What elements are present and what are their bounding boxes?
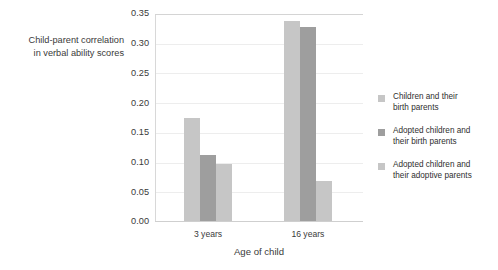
legend-swatch <box>378 129 385 136</box>
y-tick-label: 0.25 <box>115 69 149 78</box>
legend-label: Adopted children andtheir birth parents <box>393 126 496 147</box>
y-tick-label: 0.35 <box>115 9 149 18</box>
legend-label: Adopted children andtheir adoptive paren… <box>393 160 496 181</box>
bar <box>200 155 216 221</box>
legend-item: Children and theirbirth parents <box>378 92 496 114</box>
legend-label-line: Children and their <box>393 92 496 103</box>
y-tick-label: 0.00 <box>115 217 149 226</box>
bar <box>184 118 200 221</box>
bar <box>316 181 332 221</box>
y-axis-title-line-2: in verbal ability scores <box>2 47 124 60</box>
x-tick-label: 16 years <box>268 230 348 239</box>
y-tick-label: 0.30 <box>115 39 149 48</box>
legend-label: Children and theirbirth parents <box>393 92 496 113</box>
y-tick-label: 0.15 <box>115 128 149 137</box>
bar <box>284 21 300 221</box>
legend-label-line: birth parents <box>393 103 496 114</box>
x-tick-label: 3 years <box>168 230 248 239</box>
gridline <box>155 44 363 45</box>
bar <box>216 164 232 221</box>
legend: Children and theirbirth parentsAdopted c… <box>378 92 496 194</box>
gridline <box>155 73 363 74</box>
legend-swatch <box>378 163 385 170</box>
legend-item: Adopted children andtheir birth parents <box>378 126 496 148</box>
x-axis-line <box>155 221 363 222</box>
legend-swatch <box>378 95 385 102</box>
x-axis-title: Age of child <box>155 246 363 257</box>
y-tick-label: 0.05 <box>115 188 149 197</box>
legend-label-line: their birth parents <box>393 137 496 148</box>
plot-top-border <box>155 14 363 15</box>
legend-item: Adopted children andtheir adoptive paren… <box>378 160 496 182</box>
legend-label-line: their adoptive parents <box>393 171 496 182</box>
bar <box>300 27 316 221</box>
y-axis-title: Child-parent correlation in verbal abili… <box>2 34 124 59</box>
y-tick-label: 0.10 <box>115 158 149 167</box>
y-axis-line <box>155 14 156 222</box>
legend-label-line: Adopted children and <box>393 160 496 171</box>
gridline <box>155 103 363 104</box>
plot-area <box>155 14 363 222</box>
legend-label-line: Adopted children and <box>393 126 496 137</box>
y-axis-title-line-1: Child-parent correlation <box>2 34 124 47</box>
y-tick-label: 0.20 <box>115 99 149 108</box>
